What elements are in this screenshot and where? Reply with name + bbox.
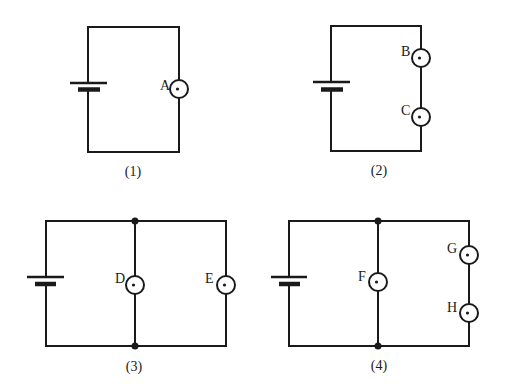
bulb-icon [460, 246, 478, 264]
circuit-2: B C (2) [313, 26, 430, 179]
bulb-icon [412, 49, 430, 67]
circuit-4: F G H (4) [271, 218, 478, 375]
bulb-label-f: F [358, 269, 366, 284]
battery-icon [313, 82, 350, 90]
circuit-1: A (1) [70, 27, 188, 180]
junction-dot-icon [375, 218, 382, 225]
junction-dot-icon [132, 218, 139, 225]
circuit-caption-4: (4) [371, 358, 388, 374]
bulb-icon [217, 276, 235, 294]
bulb-label-h: H [447, 300, 457, 315]
circuit-3: D E (3) [27, 218, 235, 376]
junction-dot-icon [132, 343, 139, 350]
circuit-caption-2: (2) [371, 163, 388, 179]
junction-dot-icon [375, 343, 382, 350]
circuit-caption-3: (3) [126, 359, 143, 375]
bulb-label-e: E [205, 271, 214, 286]
bulb-icon [412, 108, 430, 126]
bulb-label-b: B [401, 44, 410, 59]
bulb-label-g: G [447, 241, 457, 256]
circuit-diagrams: A (1) B C (2) [0, 0, 506, 392]
bulb-label-c: C [401, 103, 410, 118]
bulb-icon [126, 276, 144, 294]
bulb-icon [460, 304, 478, 322]
bulb-icon [170, 80, 188, 98]
battery-icon [27, 277, 64, 284]
circuit-caption-1: (1) [125, 164, 142, 180]
bulb-icon [369, 273, 387, 291]
battery-icon [70, 83, 107, 90]
battery-icon [271, 277, 307, 284]
bulb-label-d: D [115, 271, 125, 286]
bulb-label-a: A [160, 78, 171, 93]
